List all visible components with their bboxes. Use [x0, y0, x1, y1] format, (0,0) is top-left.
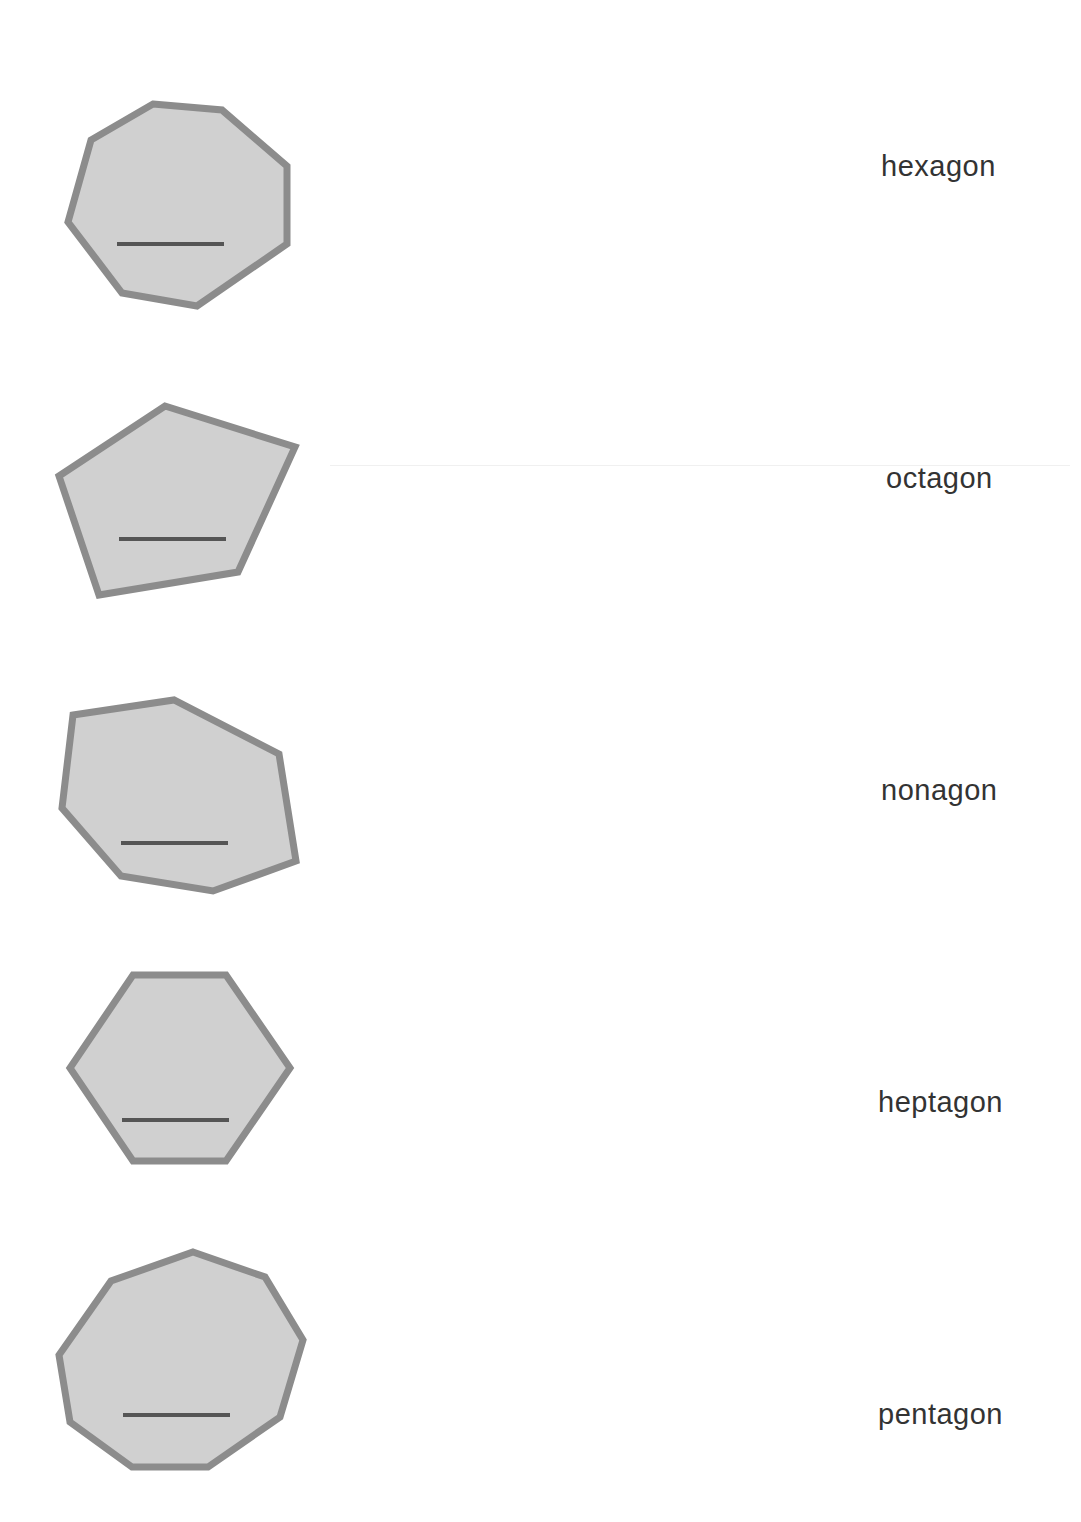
shape-label-nonagon[interactable]: nonagon [881, 774, 997, 807]
shape-label-hexagon[interactable]: hexagon [881, 150, 996, 183]
polygon-shape-1 [68, 104, 287, 306]
polygon-shape-5 [59, 1252, 303, 1467]
shape-row-5 [59, 1252, 303, 1467]
shape-label-pentagon[interactable]: pentagon [878, 1398, 1003, 1431]
worksheet-canvas: hexagon octagon nonagon heptagon pentago… [0, 0, 1081, 1522]
shape-row-4 [70, 975, 290, 1161]
polygon-shape-4 [70, 975, 290, 1161]
polygon-shape-3 [62, 700, 296, 891]
shape-label-heptagon[interactable]: heptagon [878, 1086, 1003, 1119]
shapes-layer [0, 0, 1081, 1522]
shape-row-1 [68, 104, 287, 306]
shape-label-octagon[interactable]: octagon [886, 462, 993, 495]
shape-row-3 [62, 700, 296, 891]
polygon-shape-2 [59, 406, 295, 595]
shape-row-2 [59, 406, 295, 595]
